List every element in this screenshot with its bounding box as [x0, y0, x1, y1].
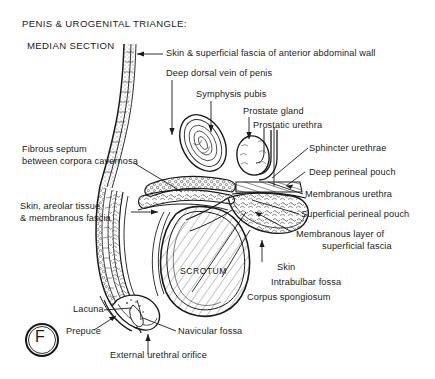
label-sphincter-urethrae: Sphincter urethrae — [309, 143, 386, 155]
label-deep-perineal-pouch: Deep perineal pouch — [309, 167, 396, 179]
symphysis-pubis-shape — [170, 107, 235, 180]
label-intrabulbar-fossa: Intrabulbar fossa — [271, 277, 341, 289]
label-scrotum: SCROTUM — [180, 266, 227, 278]
figure-title-line1: PENIS & UROGENITAL TRIANGLE: — [22, 18, 187, 30]
figure-title-line2: MEDIAN SECTION — [27, 40, 115, 52]
label-skin: Skin — [277, 262, 295, 274]
label-external-urethral-orifice: External urethral orifice — [110, 350, 207, 362]
label-prostatic-urethra: Prostatic urethra — [253, 120, 322, 132]
figure-canvas: PENIS & UROGENITAL TRIANGLE: MEDIAN SECT… — [0, 0, 435, 379]
label-membranous-layer-line2: superficial fascia — [322, 241, 392, 253]
label-lacuna: Lacuna — [73, 304, 104, 316]
label-prepuce: Prepuce — [66, 326, 101, 338]
label-membranous-urethra: Membranous urethra — [305, 189, 392, 201]
label-skin-superficial-fascia-abdominal: Skin & superficial fascia of anterior ab… — [166, 48, 375, 60]
label-superficial-perineal-pouch: Superficial perineal pouch — [301, 209, 409, 221]
label-skin-areolar-line1: Skin, areolar tissue — [20, 201, 100, 213]
label-prostate-gland: Prostate gland — [243, 106, 304, 118]
label-deep-dorsal-vein: Deep dorsal vein of penis — [166, 68, 272, 80]
label-corpus-spongiosum: Corpus spongiosum — [247, 292, 330, 304]
label-skin-areolar-line2: & membranous fascia — [20, 213, 111, 225]
label-fibrous-septum-line2: between corpora cavernosa — [22, 156, 138, 168]
label-fibrous-septum-line1: Fibrous septum — [22, 144, 87, 156]
panel-letter: F — [35, 331, 45, 343]
scrotum-shape — [161, 206, 250, 316]
label-membranous-layer-line1: Membranous layer of — [296, 229, 384, 241]
corpora-cavernosa-shaft — [108, 190, 133, 303]
label-navicular-fossa: Navicular fossa — [178, 326, 242, 338]
label-symphysis-pubis: Symphysis pubis — [196, 89, 266, 101]
root-of-penis-structures — [138, 177, 235, 210]
